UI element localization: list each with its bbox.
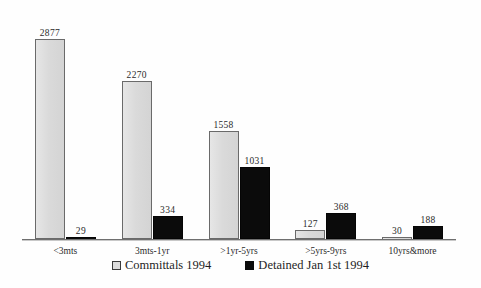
legend-item: Detained Jan 1st 1994 [245,258,369,273]
bar-group: 30188 [382,15,443,239]
bar: 334 [153,216,183,239]
bar-value-label: 30 [392,226,402,236]
bar: 1031 [240,167,270,239]
bar-value-label: 29 [76,226,86,236]
legend-item-label: Committals 1994 [125,258,211,273]
bar: 30 [382,237,412,239]
chart-legend: Committals 1994 Detained Jan 1st 1994 [0,258,481,273]
x-axis-tick-label: 3mts-1yr [109,246,196,256]
x-axis-line-shadow [22,240,456,241]
x-axis-tick-label: <3mts [22,246,109,256]
bar-value-label: 334 [160,205,175,215]
bar: 368 [326,213,356,239]
legend-item: Committals 1994 [112,258,211,273]
bar-value-label: 127 [303,219,318,229]
bar: 2270 [122,81,152,239]
x-axis-tick-label: >1yr-5yrs [196,246,283,256]
bar-group: 127368 [295,15,356,239]
bar-value-label: 188 [421,215,436,225]
bar: 127 [295,230,325,239]
dark-square-swatch-icon [245,261,254,270]
bar: 1558 [209,131,239,239]
bar-value-label: 368 [334,202,349,212]
bar-group: 15581031 [209,15,270,239]
bar-group: 287729 [35,15,96,239]
x-axis-tick-label: 10yrs&more [369,246,456,256]
bar-value-label: 2270 [127,70,147,80]
bar-value-label: 1558 [213,120,233,130]
bar-chart: 287729<3mts22703343mts-1yr15581031>1yr-5… [0,0,481,288]
legend-item-label: Detained Jan 1st 1994 [258,258,369,273]
light-square-swatch-icon [112,261,121,270]
bar: 188 [413,226,443,239]
bar: 29 [66,237,96,239]
plot-area: 287729<3mts22703343mts-1yr15581031>1yr-5… [22,8,456,232]
bar-value-label: 1031 [244,156,264,166]
bar: 2877 [35,39,65,239]
bar-group: 2270334 [122,15,183,239]
bar-value-label: 2877 [40,28,60,38]
x-axis-tick-label: >5yrs-9yrs [282,246,369,256]
